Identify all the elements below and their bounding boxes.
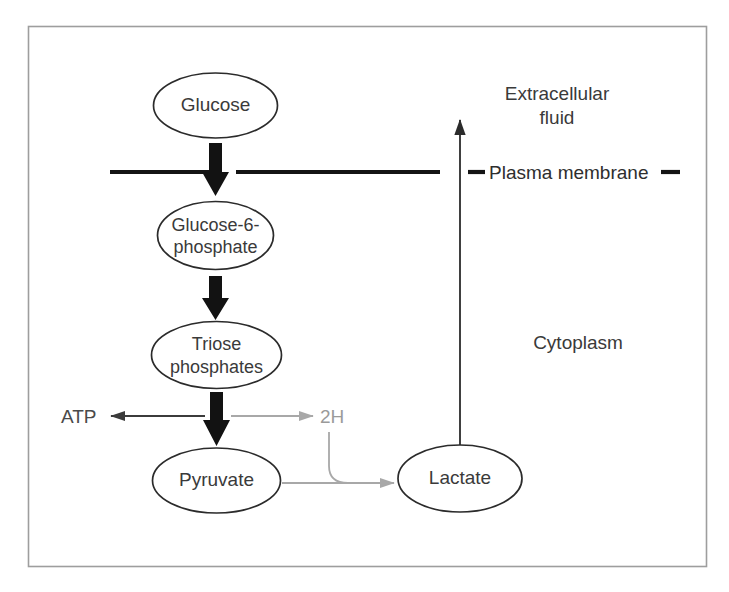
node-glucose-6-phosphate: Glucose-6- phosphate	[158, 202, 274, 270]
atp-branch: ATP	[61, 406, 205, 427]
cytoplasm-label: Cytoplasm	[533, 332, 623, 353]
glucose-6-phosphate-label-line-1: Glucose-6-	[171, 215, 259, 235]
pyruvate-label: Pyruvate	[179, 469, 254, 490]
node-triose-phosphates: Triose phosphates	[152, 322, 282, 389]
node-lactate: Lactate	[398, 445, 522, 512]
figure-frame	[29, 27, 707, 567]
arrow-triose-to-pyruvate	[203, 392, 230, 446]
glucose-6-phosphate-ellipse	[158, 202, 274, 270]
arrow-g6p-to-triose	[202, 276, 229, 320]
two-h-to-lactate-curve	[329, 432, 348, 483]
extracellular-line-2: fluid	[540, 107, 575, 128]
triose-phosphates-label-line-1: Triose	[192, 334, 241, 354]
glucose-6-phosphate-label-line-2: phosphate	[173, 237, 257, 257]
glucose-label: Glucose	[181, 94, 251, 115]
figure-canvas: Plasma membrane Extracellular fluid Cyto…	[0, 0, 729, 592]
arrow-glucose-to-g6p	[202, 143, 229, 196]
lactate-label: Lactate	[429, 467, 491, 488]
two-h-label: 2H	[320, 406, 344, 427]
triose-phosphates-label-line-2: phosphates	[170, 357, 263, 377]
extracellular-fluid-label: Extracellular fluid	[505, 83, 610, 128]
triose-phosphates-ellipse	[152, 322, 282, 389]
plasma-membrane-group: Plasma membrane	[110, 162, 680, 183]
plasma-membrane-label: Plasma membrane	[489, 162, 648, 183]
node-pyruvate: Pyruvate	[153, 448, 281, 513]
glycolysis-diagram: Plasma membrane Extracellular fluid Cyto…	[0, 0, 729, 592]
atp-label: ATP	[61, 406, 97, 427]
extracellular-line-1: Extracellular	[505, 83, 610, 104]
node-glucose: Glucose	[154, 73, 278, 138]
